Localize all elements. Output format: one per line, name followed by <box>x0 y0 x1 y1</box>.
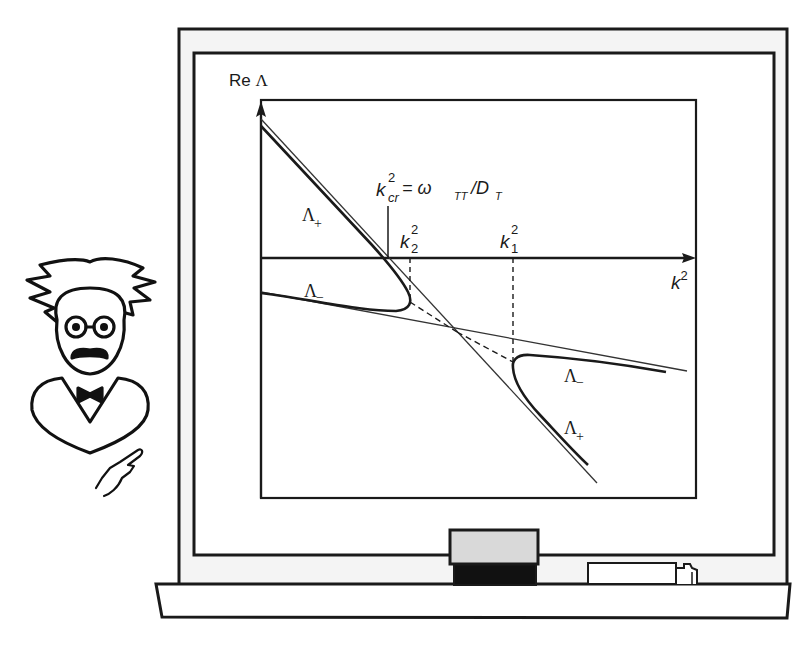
svg-text:+: + <box>576 429 584 444</box>
plot-frame <box>261 100 696 498</box>
svg-text:2: 2 <box>411 222 418 237</box>
svg-text:−: − <box>576 375 584 390</box>
svg-text:cr: cr <box>388 190 400 205</box>
svg-text:k: k <box>376 179 387 200</box>
svg-text:2: 2 <box>511 222 518 237</box>
svg-text:TT: TT <box>454 190 469 202</box>
chalkboard-scene: Re Λ k2 k 2 cr = ω TT /D T k 2 2 k 2 1 Λ… <box>0 0 807 650</box>
professor-icon <box>27 259 155 496</box>
chalk-tray <box>156 584 790 618</box>
svg-text:k: k <box>500 231 511 252</box>
svg-text:= ω: = ω <box>402 178 432 198</box>
svg-text:/D: /D <box>469 178 489 198</box>
svg-text:+: + <box>314 216 322 231</box>
y-axis-label: Re Λ <box>229 71 268 90</box>
svg-text:−: − <box>316 290 324 305</box>
svg-text:k: k <box>400 231 411 252</box>
eraser-icon <box>450 530 538 585</box>
svg-text:2: 2 <box>411 241 418 256</box>
svg-text:2: 2 <box>388 170 395 185</box>
dispersion-diagram: Re Λ k2 k 2 cr = ω TT /D T k 2 2 k 2 1 Λ… <box>229 71 696 498</box>
svg-text:1: 1 <box>511 241 518 256</box>
